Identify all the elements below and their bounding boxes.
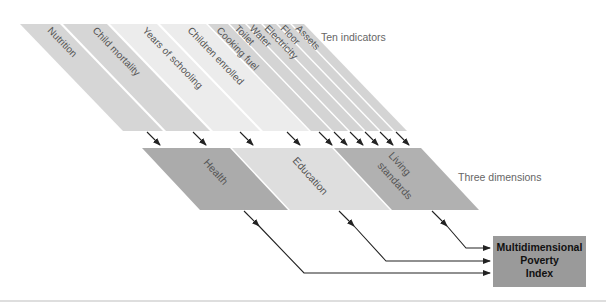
living-standards-connector <box>447 226 490 248</box>
indicator-arrows <box>147 132 409 145</box>
mpi-box: Multidimensional Poverty Index <box>493 236 586 287</box>
arrow-icon <box>244 211 259 226</box>
arrow-icon <box>287 132 300 145</box>
education-connector <box>354 226 490 261</box>
arrow-icon <box>193 132 206 145</box>
arrow-icon <box>334 132 347 145</box>
arrow-icon <box>432 211 447 226</box>
arrow-icon <box>240 132 253 145</box>
arrow-icon <box>339 211 354 226</box>
arrow-icon <box>147 132 160 145</box>
mpi-label-line3: Index <box>526 267 554 279</box>
health-connector <box>259 226 490 273</box>
mpi-label-line2: Poverty <box>520 254 559 266</box>
three-dimensions-caption: Three dimensions <box>458 171 541 183</box>
arrow-icon <box>319 132 332 145</box>
arrow-icon <box>350 132 363 145</box>
mpi-diagram: Nutrition Child mortality Years of schoo… <box>0 0 613 307</box>
arrow-icon <box>396 132 409 145</box>
arrow-icon <box>365 132 378 145</box>
dimension-connectors <box>244 211 490 273</box>
ten-indicators-caption: Ten indicators <box>321 31 386 43</box>
arrow-icon <box>380 132 393 145</box>
mpi-label-line1: Multidimensional <box>497 241 583 253</box>
